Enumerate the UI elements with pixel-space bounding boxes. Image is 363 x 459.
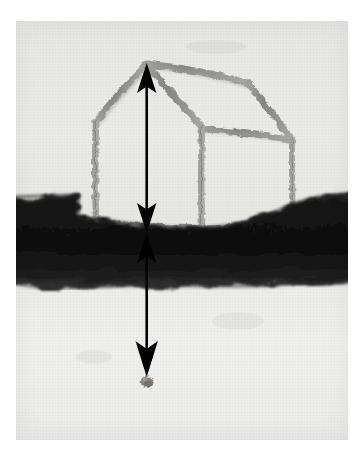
drawing-layer	[16, 21, 348, 440]
arrow-above-shaft	[145, 69, 148, 229]
artwork-plate	[16, 21, 348, 440]
seed-highlight	[143, 378, 148, 382]
artwork-figure	[0, 0, 363, 459]
house-front-right-post	[201, 128, 202, 225]
arrow-above-ground-height	[137, 63, 156, 233]
house-left-roof-slope	[96, 65, 147, 121]
ground-soil-band	[16, 193, 348, 290]
house-frame	[94, 64, 294, 228]
house-rear-roof-slope	[248, 83, 292, 139]
house-front-left-post	[95, 122, 96, 219]
buried-seed	[140, 376, 153, 388]
